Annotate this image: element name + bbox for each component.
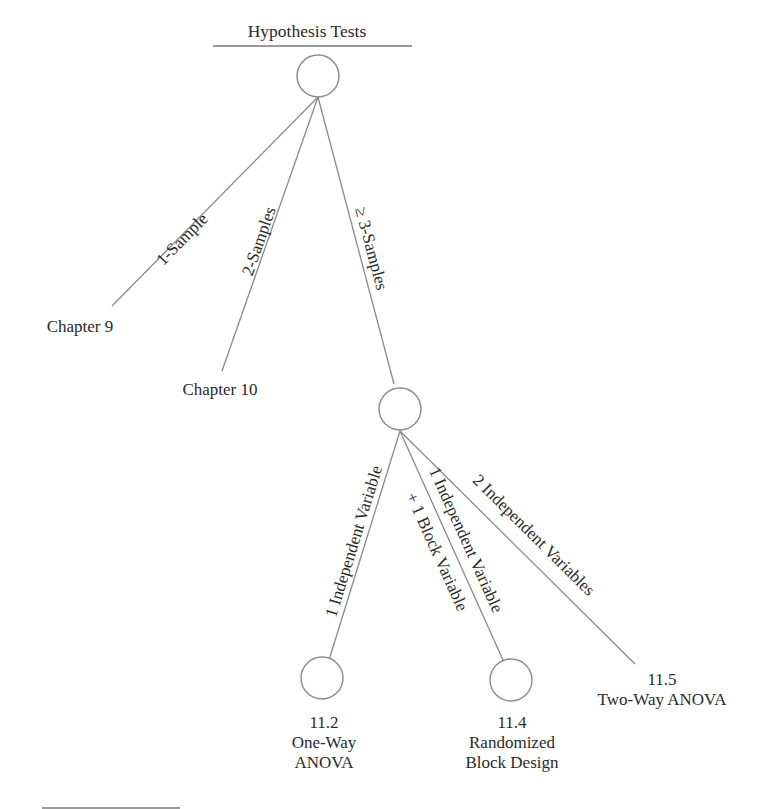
leaf-one-way-line1: One-Way [292, 733, 357, 752]
edge-3-samples [318, 97, 394, 384]
leaf-one-way-section: 11.2 [309, 713, 338, 732]
randomized-block-node [490, 659, 532, 701]
edge-label-one-indep: 1 Independent Variable [321, 463, 386, 619]
leaf-one-way-line2: ANOVA [294, 753, 354, 772]
hypothesis-test-diagram: Hypothesis Tests 1-Sample 2-Samples ≥ 3-… [0, 0, 783, 809]
edge-randomized-block [400, 431, 503, 660]
leaf-chapter-10: Chapter 10 [182, 380, 257, 399]
root-node [297, 55, 339, 97]
edge-1-sample [112, 97, 318, 306]
leaf-randomized-line1: Randomized [469, 733, 555, 752]
leaf-randomized-section: 11.4 [497, 713, 527, 732]
leaf-two-way-line1: Two-Way ANOVA [598, 690, 728, 709]
one-way-anova-node [301, 657, 343, 699]
leaf-randomized-line2: Block Design [465, 753, 559, 772]
leaf-two-way-section: 11.5 [647, 670, 676, 689]
edge-label-3-samples: ≥ 3-Samples [351, 205, 391, 292]
edge-label-1-sample: 1-Sample [152, 209, 211, 269]
edge-label-2-samples: 2-Samples [238, 204, 280, 278]
leaf-chapter-9: Chapter 9 [47, 317, 114, 336]
three-samples-node [379, 388, 421, 430]
edge-one-way [329, 431, 400, 660]
diagram-title: Hypothesis Tests [248, 21, 367, 41]
